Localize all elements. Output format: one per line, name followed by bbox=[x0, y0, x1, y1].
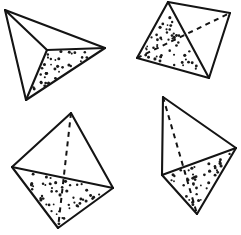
tetrahedron-3-stipple-dot bbox=[57, 222, 60, 225]
tetrahedron-3-stipple-dot bbox=[41, 195, 43, 197]
tetrahedron-3-stipple-dot bbox=[63, 217, 66, 220]
tetrahedron-2-stipple-dot bbox=[155, 34, 158, 37]
tetrahedron-3-stipple-dot bbox=[39, 197, 41, 199]
tetrahedron-3-stipple-dot bbox=[85, 189, 88, 192]
tetrahedron-1-stipple-dot bbox=[44, 76, 46, 78]
tetrahedron-3-stipple-dot bbox=[55, 190, 58, 193]
tetrahedron-2-stipple-dot bbox=[175, 44, 178, 47]
tetrahedron-2-stipple-dot bbox=[146, 46, 148, 48]
tetrahedron-2-stipple-dot bbox=[156, 44, 158, 46]
tetrahedron-2-stipple-dot bbox=[195, 68, 197, 70]
tetrahedron-2-stipple-dot bbox=[156, 38, 159, 41]
tetrahedron-2-stipple-dot bbox=[173, 64, 175, 66]
tetrahedron-4-stipple-dot bbox=[185, 195, 188, 198]
tetrahedron-2-stipple-dot bbox=[166, 31, 168, 33]
tetrahedron-4-stipple-dot bbox=[188, 169, 190, 171]
tetrahedron-2-stipple-dot bbox=[181, 61, 184, 64]
tetrahedron-4-stipple-dot bbox=[214, 167, 217, 170]
tetrahedron-2-stipple-dot bbox=[150, 36, 152, 38]
tetrahedron-3-stipple-dot bbox=[54, 181, 57, 184]
tetrahedron-4-stipple-dot bbox=[190, 167, 193, 170]
tetrahedron-4-stipple-dot bbox=[194, 178, 197, 181]
tetrahedron-1-stipple-dot bbox=[67, 64, 70, 67]
tetrahedron-1-stipple-dot bbox=[54, 59, 56, 61]
tetrahedron-2-stipple-dot bbox=[195, 65, 198, 68]
tetrahedron-4-stipple-dot bbox=[206, 187, 208, 189]
tetrahedron-3-stipple-dot bbox=[76, 184, 78, 186]
tetrahedron-3-stipple-dot bbox=[92, 196, 95, 199]
tetrahedron-1-stipple-dot bbox=[47, 57, 49, 59]
tetrahedron-3-stipple-dot bbox=[49, 182, 51, 184]
tetrahedron-3-stipple-dot bbox=[89, 194, 92, 197]
tetrahedron-2-stipple-dot bbox=[159, 37, 162, 40]
tetrahedron-2-stipple-dot bbox=[158, 26, 161, 29]
tetrahedron-4-stipple-dot bbox=[219, 162, 222, 165]
tetrahedron-4-stipple-dot bbox=[195, 193, 197, 195]
tetrahedron-4-stipple-dot bbox=[200, 199, 202, 201]
tetrahedron-1-stipple-dot bbox=[73, 51, 76, 54]
tetrahedron-4-stipple-dot bbox=[192, 173, 194, 175]
tetrahedron-2-stipple-dot bbox=[171, 38, 173, 40]
tetrahedron-1-stipple-dot bbox=[41, 67, 44, 70]
tetrahedron-2-stipple-dot bbox=[169, 24, 172, 27]
tetrahedron-2-stipple-dot bbox=[167, 24, 169, 26]
tetrahedron-4-stipple-dot bbox=[214, 174, 217, 177]
tetrahedron-3-stipple-dot bbox=[50, 177, 52, 179]
tetrahedron-1-stipple-dot bbox=[53, 67, 56, 70]
tetrahedron-3-stipple-dot bbox=[32, 185, 34, 187]
tetrahedron-3-stipple-dot bbox=[48, 204, 51, 207]
tetrahedron-2-stipple-dot bbox=[183, 54, 186, 57]
tetrahedron-3-stipple-dot bbox=[69, 184, 71, 186]
tetrahedron-2-stipple-dot bbox=[168, 49, 171, 52]
tetrahedron-4-stipple-dot bbox=[173, 180, 175, 182]
tetrahedron-2-stipple-dot bbox=[171, 21, 173, 23]
tetrahedron-2-stipple-dot bbox=[175, 34, 178, 37]
tetrahedron-1-stipple-dot bbox=[61, 66, 64, 69]
tetrahedron-4-stipple-dot bbox=[216, 171, 219, 174]
tetrahedron-4-stipple-dot bbox=[207, 181, 210, 184]
tetrahedron-1-stipple-dot bbox=[47, 53, 49, 55]
tetrahedron-2-stipple-dot bbox=[173, 32, 175, 34]
tetrahedron-2-stipple-dot bbox=[168, 16, 171, 19]
tetrahedron-1-stipple-dot bbox=[68, 51, 71, 54]
tetrahedron-3-stipple-dot bbox=[68, 204, 70, 206]
tetrahedron-4-stipple-dot bbox=[207, 162, 210, 165]
tetrahedron-2-stipple-dot bbox=[187, 61, 190, 64]
tetrahedron-2-stipple-dot bbox=[153, 57, 156, 60]
tetrahedron-2-stipple-dot bbox=[160, 54, 163, 57]
tetrahedron-3-stipple-dot bbox=[81, 183, 83, 185]
tetrahedron-1-stipple-dot bbox=[56, 65, 59, 68]
tetrahedron-4-stipple-dot bbox=[172, 173, 175, 176]
tetrahedron-2-stipple-dot bbox=[167, 38, 169, 40]
tetrahedra-figure bbox=[0, 0, 241, 235]
tetrahedron-1-stipple-dot bbox=[58, 71, 60, 73]
tetrahedron-4-stipple-dot bbox=[195, 187, 198, 190]
tetrahedron-2 bbox=[137, 2, 230, 78]
tetrahedron-3-stipple-dot bbox=[61, 186, 64, 189]
tetrahedron-1 bbox=[5, 10, 105, 100]
tetrahedron-1-stipple-dot bbox=[44, 82, 47, 85]
tetrahedron-4-stipple-dot bbox=[200, 185, 202, 187]
tetrahedron-1-stipple-dot bbox=[84, 51, 87, 54]
tetrahedron-3-stipple-dot bbox=[53, 204, 55, 206]
tetrahedron-3-stipple-dot bbox=[76, 204, 79, 207]
tetrahedron-4-stipple-dot bbox=[195, 175, 198, 178]
tetrahedron-4-stipple-dot bbox=[170, 179, 172, 181]
tetrahedron-3-stipple-dot bbox=[50, 190, 53, 193]
tetrahedron-1-stipple-dot bbox=[39, 73, 41, 75]
tetrahedron-1-stipple-dot bbox=[43, 63, 46, 66]
tetrahedron-4-stipple-dot bbox=[191, 177, 194, 180]
tetrahedron-4-stipple-dot bbox=[182, 184, 184, 186]
tetrahedron-2-stipple-dot bbox=[182, 64, 184, 66]
tetrahedron-3-stipple-dot bbox=[78, 202, 81, 205]
tetrahedron-2-stipple-dot bbox=[165, 28, 167, 30]
tetrahedron-3-stipple-dot bbox=[51, 187, 53, 189]
tetrahedron-4-stipple-dot bbox=[208, 170, 211, 173]
tetrahedron-2-stipple-dot bbox=[188, 50, 190, 52]
tetrahedron-2-stipple-dot bbox=[159, 60, 162, 63]
tetrahedron-4-stipple-dot bbox=[192, 182, 195, 185]
tetrahedron-3 bbox=[12, 113, 113, 228]
tetrahedron-4-stipple-dot bbox=[219, 158, 222, 161]
tetrahedron-2-stipple-dot bbox=[145, 47, 147, 49]
tetrahedron-3-stipple-dot bbox=[58, 193, 61, 196]
